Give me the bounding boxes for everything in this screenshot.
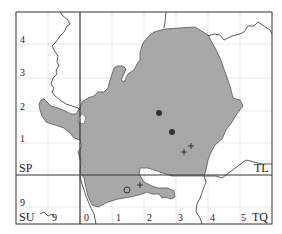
distribution-map: 4 3 2 1 9 9 0 1 2 3 4 5 SP TL SU TQ: [0, 0, 282, 234]
solid-dot-record: [156, 110, 162, 116]
y-tick-2: 2: [20, 101, 25, 112]
square-label-sp: SP: [19, 161, 33, 175]
x-tick-4: 4: [210, 212, 215, 223]
solid-dot-record: [169, 129, 175, 135]
county-area: [39, 27, 243, 207]
x-tick-0: 0: [84, 212, 89, 223]
y-tick-4: 4: [20, 34, 25, 45]
square-label-tl: TL: [254, 161, 269, 175]
x-tick-9: 9: [52, 212, 57, 223]
x-tick-3: 3: [178, 212, 183, 223]
square-label-su: SU: [19, 210, 35, 224]
square-label-tq: TQ: [252, 210, 268, 224]
y-tick-3: 3: [20, 67, 25, 78]
y-tick-1: 1: [20, 133, 25, 144]
x-tick-2: 2: [147, 212, 152, 223]
x-tick-1: 1: [116, 212, 121, 223]
x-tick-5: 5: [241, 212, 246, 223]
y-tick-9: 9: [20, 197, 25, 208]
